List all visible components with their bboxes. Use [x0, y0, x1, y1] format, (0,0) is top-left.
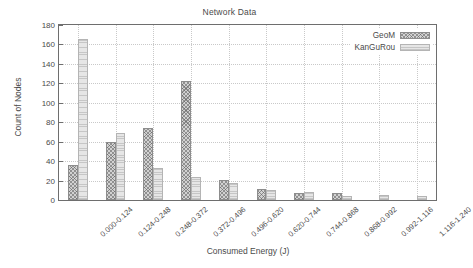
y-tick-mark [59, 122, 63, 123]
legend-label-geom: GeoM [373, 31, 395, 40]
plot-area: 020406080100120140160180 GeoM KanGuRou [58, 24, 437, 201]
x-tick-label: 0.124-0.248 [136, 205, 172, 239]
vertical-gridline [342, 25, 343, 200]
chart-title: Network Data [0, 7, 459, 17]
bar-kangurou-7 [342, 196, 352, 200]
legend-label-kangurou: KanGuRou [354, 43, 395, 52]
x-axis-label: Consumed Energy (J) [58, 246, 438, 256]
bar-kangurou-4 [229, 183, 239, 200]
x-tick-label: 0.744-0.868 [324, 205, 360, 239]
bar-geom-6 [294, 193, 304, 200]
x-tick-label: 1.116-1.240 [437, 205, 473, 238]
x-tick-label: 0.496-0.620 [249, 205, 285, 239]
chart-legend: GeoM KanGuRou [350, 28, 433, 54]
y-tick-label: 20 [46, 176, 55, 185]
legend-entry-kangurou: KanGuRou [354, 42, 430, 52]
y-tick-label: 60 [46, 137, 55, 146]
x-tick-label: 0.992-1.116 [400, 205, 436, 238]
vertical-gridline [229, 25, 230, 200]
y-tick-mark [59, 142, 63, 143]
y-tick-label: 0 [51, 196, 55, 205]
bar-geom-3 [181, 81, 191, 200]
legend-swatch-geom-icon [400, 32, 430, 39]
y-tick-mark [59, 64, 63, 65]
bar-geom-7 [332, 193, 342, 200]
y-tick-label: 80 [46, 118, 55, 127]
legend-entry-geom: GeoM [354, 30, 430, 40]
bar-kangurou-2 [153, 168, 163, 200]
y-tick-label: 140 [42, 59, 55, 68]
y-tick-label: 40 [46, 157, 55, 166]
legend-swatch-kangurou-icon [400, 44, 430, 51]
bar-kangurou-1 [116, 133, 126, 200]
y-tick-mark [59, 181, 63, 182]
bar-kangurou-6 [304, 192, 314, 200]
y-tick-label: 120 [42, 79, 55, 88]
bar-geom-1 [106, 142, 116, 200]
y-tick-mark [59, 200, 63, 201]
vertical-gridline [191, 25, 192, 200]
x-tick-label: 0.868-0.992 [362, 205, 398, 239]
bar-kangurou-5 [266, 190, 276, 200]
y-tick-label: 180 [42, 21, 55, 30]
bar-kangurou-8 [379, 195, 389, 200]
y-tick-label: 160 [42, 40, 55, 49]
y-tick-mark [59, 83, 63, 84]
bar-geom-2 [143, 128, 153, 200]
y-axis-label: Count of Nodes [13, 52, 23, 162]
x-tick-label: 0.372-0.496 [211, 205, 247, 239]
x-tick-label: 0.248-0.372 [174, 205, 210, 239]
bar-geom-0 [68, 165, 78, 200]
bar-kangurou-0 [78, 39, 88, 200]
vertical-gridline [266, 25, 267, 200]
bar-kangurou-3 [191, 177, 201, 200]
y-tick-mark [59, 161, 63, 162]
bar-geom-5 [257, 189, 267, 200]
y-tick-mark [59, 25, 63, 26]
vertical-gridline [304, 25, 305, 200]
x-tick-label: 0.000-0.124 [98, 205, 134, 239]
x-tick-label: 0.620-0.744 [287, 205, 323, 239]
bar-geom-4 [219, 180, 229, 200]
y-tick-label: 100 [42, 98, 55, 107]
y-tick-mark [59, 103, 63, 104]
y-tick-mark [59, 44, 63, 45]
bar-kangurou-9 [417, 196, 427, 200]
